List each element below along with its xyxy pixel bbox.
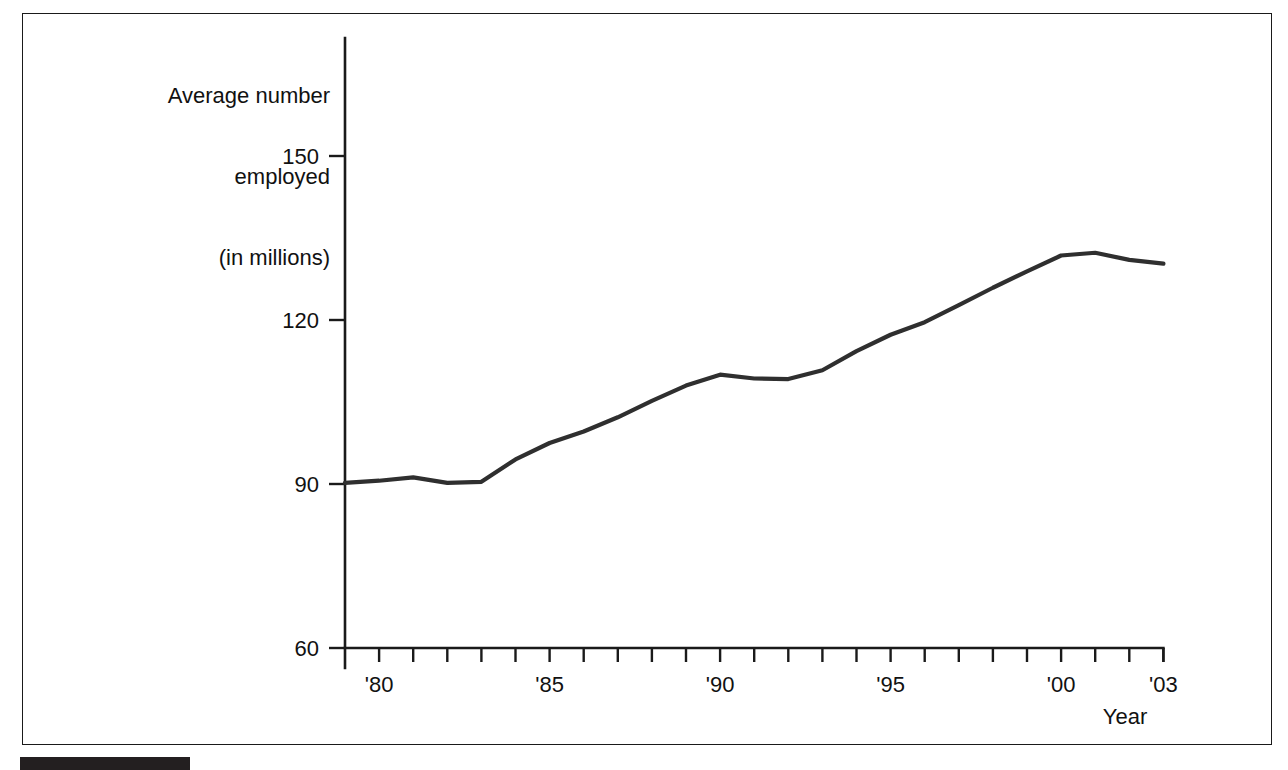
x-tick-label: '80 bbox=[365, 672, 394, 697]
x-tick-label: '95 bbox=[876, 672, 905, 697]
figure-root: 6090120150 '80'85'90'95'00'03 Average nu… bbox=[0, 0, 1288, 770]
y-tick-label: 60 bbox=[295, 636, 319, 661]
y-axis-title: Average number employed (in millions) bbox=[80, 28, 330, 325]
y-axis-title-line-3: (in millions) bbox=[80, 244, 330, 271]
x-tick-label: '90 bbox=[706, 672, 735, 697]
y-tick-label: 90 bbox=[295, 472, 319, 497]
y-axis-title-line-2: employed bbox=[80, 163, 330, 190]
x-tick-label: '85 bbox=[535, 672, 564, 697]
x-tick-label: '03 bbox=[1149, 672, 1178, 697]
x-axis-tick-labels: '80'85'90'95'00'03 bbox=[365, 672, 1178, 697]
chart-axes bbox=[345, 38, 1163, 668]
employment-data-line bbox=[345, 253, 1163, 483]
y-axis-title-line-1: Average number bbox=[80, 82, 330, 109]
chart-tick-marks bbox=[329, 156, 1163, 662]
employment-series-line bbox=[345, 253, 1163, 483]
footer-marker-bar bbox=[20, 757, 190, 770]
x-tick-label: '00 bbox=[1047, 672, 1076, 697]
x-axis-title: Year bbox=[1060, 703, 1190, 730]
